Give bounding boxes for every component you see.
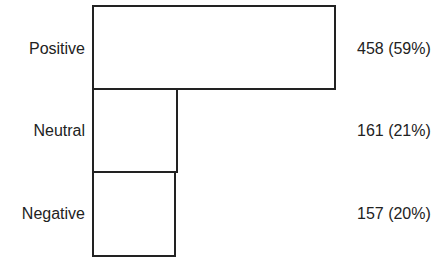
- data-label-positive: 458 (59%): [357, 40, 431, 58]
- category-label-positive: Positive: [29, 40, 85, 58]
- data-label-neutral: 161 (21%): [357, 122, 431, 140]
- bar-neutral: [92, 88, 178, 173]
- category-label-negative: Negative: [22, 205, 85, 223]
- bar-negative: [92, 171, 176, 257]
- data-label-negative: 157 (20%): [357, 205, 431, 223]
- bar-positive: [92, 5, 336, 90]
- category-label-neutral: Neutral: [33, 122, 85, 140]
